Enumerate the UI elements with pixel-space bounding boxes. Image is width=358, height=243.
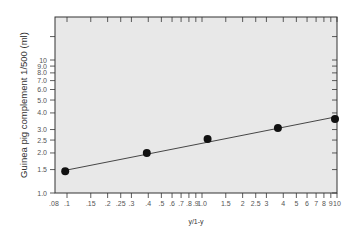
y-tick-label: 6.0 [37,86,47,93]
data-point [61,167,69,175]
x-axis-tick-labels: .08.1.15.2.25.3.4.5.6.7.8.91.01.522.5345… [49,200,341,207]
y-tick-label: 2.0 [37,149,47,156]
x-tick-label: 3 [264,200,268,207]
x-tick-label: 1.0 [197,200,207,207]
x-tick-label: .08 [49,200,59,207]
x-tick-label: 6 [305,200,309,207]
x-tick-label: 5 [294,200,298,207]
x-tick-label: .2 [105,200,111,207]
data-point [143,149,151,157]
x-tick-label: 1.5 [221,200,231,207]
x-tick-label: .25 [116,200,126,207]
x-tick-label: 2 [241,200,245,207]
y-tick-label: 9.0 [37,63,47,70]
y-tick-label: 8.0 [37,69,47,76]
y-tick-label: 5.0 [37,97,47,104]
x-tick-label: .8 [186,200,192,207]
x-tick-label: .4 [145,200,151,207]
x-tick-label: .6 [169,200,175,207]
chart: .08.1.15.2.25.3.4.5.6.7.8.91.01.522.5345… [0,0,358,243]
x-tick-label: 7 [314,200,318,207]
y-tick-label: 4.0 [37,109,47,116]
data-point [204,135,212,143]
x-tick-label: 4 [281,200,285,207]
x-tick-label: .7 [178,200,184,207]
y-tick-label: 10 [39,57,47,64]
data-point [274,124,282,132]
x-tick-label: 10 [333,200,341,207]
y-axis-title: Guinea pig complement 1/500 (ml) [18,32,29,178]
y-tick-label: 1.0 [37,190,47,197]
x-tick-label: 2.5 [251,200,261,207]
x-tick-label: .3 [128,200,134,207]
y-tick-label: 2.5 [37,137,47,144]
x-tick-label: .5 [158,200,164,207]
y-axis-tick-labels: 1.01.52.02.53.04.05.06.07.08.09.010 [37,57,47,197]
x-tick-label: .1 [64,200,70,207]
x-tick-label: 8 [322,200,326,207]
x-tick-label: .15 [86,200,96,207]
y-tick-label: 3.0 [37,126,47,133]
y-tick-label: 1.5 [37,166,47,173]
plot-area [55,17,337,193]
y-tick-label: 7.0 [37,77,47,84]
data-point [331,115,339,123]
x-axis-title: y/1-y [188,218,204,226]
